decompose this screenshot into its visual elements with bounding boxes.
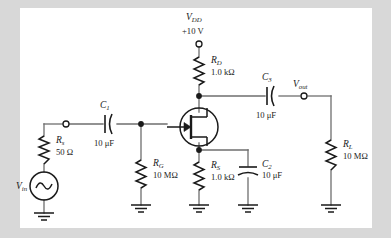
ground-rg <box>131 205 151 212</box>
node-gate-junction <box>138 121 144 127</box>
ground-c2 <box>238 205 258 212</box>
sine-wave-icon <box>36 183 52 189</box>
label-rg-name: RG <box>152 158 164 169</box>
resistor-rl <box>326 140 336 170</box>
label-rs-source-name: RS <box>210 160 221 171</box>
label-vout: Vout <box>293 79 309 90</box>
label-rd-value: 1.0 kΩ <box>211 67 235 77</box>
label-c1-value: 10 μF <box>94 138 114 148</box>
label-rl-name: RL <box>342 139 353 150</box>
label-c2-name: C2 <box>262 159 272 170</box>
label-vdd-voltage: +10 V <box>182 26 204 36</box>
label-rs-series-value: 50 Ω <box>56 147 73 157</box>
label-rs-source-value: 1.0 kΩ <box>211 172 235 182</box>
ground-vsource <box>34 213 54 220</box>
ac-source <box>30 172 58 200</box>
ground-rs-source <box>189 205 209 212</box>
resistor-rd <box>194 57 204 85</box>
resistor-rs-series <box>39 136 49 164</box>
capacitor-c2 <box>238 167 258 175</box>
terminal-vout[interactable] <box>301 93 307 99</box>
label-rg-value: 10 MΩ <box>153 170 178 180</box>
label-c2-value: 10 μF <box>262 170 282 180</box>
capacitor-c3 <box>267 86 274 106</box>
label-c3-name: C3 <box>262 72 272 83</box>
ground-rl <box>321 205 341 212</box>
label-rd-name: RD <box>210 55 222 66</box>
terminal-vin[interactable] <box>63 121 69 127</box>
label-rs-series-name: Rs <box>55 135 65 146</box>
label-rl-value: 10 MΩ <box>343 151 368 161</box>
label-c3-value: 10 μF <box>256 110 276 120</box>
label-vdd-name: VDD <box>186 12 202 23</box>
jfet-transistor <box>167 108 218 146</box>
node-source-junction <box>196 147 202 153</box>
terminal-vdd[interactable] <box>196 41 202 47</box>
resistor-rs-source <box>194 162 204 190</box>
capacitor-c1 <box>105 114 112 134</box>
resistor-rg <box>136 160 146 188</box>
schematic-svg-wrapper: RD 1.0 kΩ RG 10 MΩ RS 1.0 kΩ Rs 50 Ω RL … <box>0 0 391 238</box>
schematic-page: RD 1.0 kΩ RG 10 MΩ RS 1.0 kΩ Rs 50 Ω RL … <box>0 0 391 238</box>
label-c1-name: C1 <box>100 100 110 111</box>
node-drain-junction <box>196 93 202 99</box>
label-vin: Vin <box>16 181 28 192</box>
